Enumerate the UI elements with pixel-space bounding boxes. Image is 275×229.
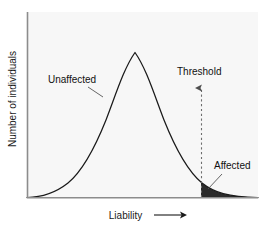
x-axis-label-container: Liability [27,205,258,225]
annotation-threshold: Threshold [177,66,221,77]
liability-threshold-figure: Number of individuals Liability Unaffect… [0,0,275,229]
distribution-chart-canvas [0,0,275,229]
annotation-unaffected: Unaffected [48,74,96,85]
x-axis-arrow-spacer [146,211,176,220]
x-axis-label: Liability [109,210,142,221]
y-axis-label-container: Number of individuals [0,0,24,198]
annotation-affected: Affected [214,160,251,171]
y-axis-label: Number of individuals [7,51,18,147]
